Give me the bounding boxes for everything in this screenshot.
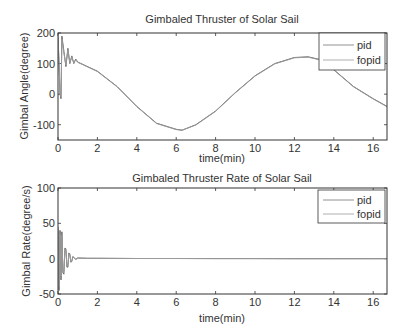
- bottom-chart: Gimbaled Thruster Rate of Solar Sail Gim…: [20, 172, 387, 324]
- bottom-y-label: Gimbal Rate(degree/s): [20, 185, 32, 296]
- bottom-chart-title: Gimbaled Thruster Rate of Solar Sail: [132, 172, 312, 184]
- series-line-fopid: [58, 230, 387, 287]
- y-tick-label: 0: [49, 88, 55, 100]
- top-chart-title: Gimbaled Thruster of Solar Sail: [145, 13, 298, 25]
- legend-fopid-label: fopid: [357, 54, 381, 66]
- x-tick-label: 14: [328, 142, 340, 154]
- y-tick-label: 200: [37, 27, 55, 39]
- y-tick-label: 50: [43, 217, 55, 229]
- x-tick-label: 16: [367, 142, 379, 154]
- x-tick-label: 8: [213, 296, 219, 308]
- bottom-x-label: time(min): [199, 312, 245, 324]
- x-tick-label: 10: [249, 142, 261, 154]
- x-tick-label: 12: [288, 296, 300, 308]
- x-tick-label: 2: [94, 296, 100, 308]
- legend-pid-label: pid: [357, 194, 372, 206]
- x-tick-label: 6: [173, 142, 179, 154]
- legend-pid-label: pid: [357, 39, 372, 51]
- x-tick-label: 0: [55, 142, 61, 154]
- bottom-series-lines: [58, 227, 387, 291]
- top-chart: Gimbaled Thruster of Solar Sail Gimbal A…: [18, 13, 387, 164]
- legend-fopid-label: fopid: [357, 208, 381, 220]
- x-tick-label: 14: [328, 296, 340, 308]
- x-tick-label: 4: [134, 142, 140, 154]
- x-tick-label: 8: [213, 142, 219, 154]
- x-tick-label: 4: [134, 296, 140, 308]
- x-tick-label: 10: [249, 296, 261, 308]
- x-tick-label: 6: [173, 296, 179, 308]
- x-tick-label: 16: [367, 296, 379, 308]
- y-tick-label: 0: [49, 253, 55, 265]
- x-tick-label: 0: [55, 296, 61, 308]
- y-tick-label: 100: [37, 58, 55, 70]
- figure: Gimbaled Thruster of Solar Sail Gimbal A…: [0, 0, 408, 336]
- top-x-label: time(min): [199, 152, 245, 164]
- y-tick-label: 100: [37, 182, 55, 194]
- y-tick-label: -50: [39, 288, 55, 300]
- x-tick-label: 2: [94, 142, 100, 154]
- x-tick-label: 12: [288, 142, 300, 154]
- y-tick-label: -100: [33, 119, 55, 131]
- bottom-legend: pid fopid: [318, 190, 385, 223]
- top-legend: pid fopid: [319, 33, 385, 70]
- top-y-label: Gimbal Angle(degree): [18, 32, 30, 139]
